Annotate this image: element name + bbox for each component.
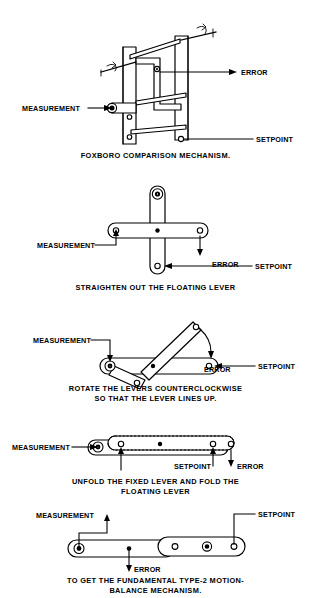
unfold-error-pivot: [228, 441, 233, 446]
panel-final: MEASUREMENT SETPOINT ERROR TO GET THE FU…: [36, 510, 296, 595]
final-mid-pivot: [172, 544, 178, 550]
straighten-measurement-label: MEASUREMENT: [37, 241, 95, 250]
foxboro-pivot-left-low: [127, 135, 132, 140]
rotate-error-pivot: [193, 324, 198, 329]
unfold-setpoint-label: SETPOINT: [174, 462, 212, 471]
foxboro-pivot-error-center: [156, 68, 158, 70]
rotate-measurement-leader: [91, 340, 113, 362]
rotate-caption-line-2: SO THAT THE LEVER LINES UP.: [94, 394, 216, 403]
rotate-measurement-bearing: [105, 361, 115, 371]
final-caption-line-1: TO GET THE FUNDAMENTAL TYPE-2 MOTION-: [67, 576, 244, 585]
unfold-setpoint-pivot: [210, 441, 215, 446]
figure-root: ERROR SETPOINT MEASUREMENT FOXBORO COMPA…: [0, 0, 311, 598]
unfold-error-label: ERROR: [237, 462, 264, 471]
straighten-top-bearing: [152, 189, 162, 199]
foxboro-pivot-left-mid: [127, 115, 132, 120]
foxboro-caption-line-1: FOXBORO COMPARISON MECHANISM.: [81, 151, 231, 160]
straighten-caption-line-1: STRAIGHTEN OUT THE FLOATING LEVER: [75, 283, 235, 292]
straighten-error-label: ERROR: [212, 260, 239, 269]
rotate-setpoint-label: SETPOINT: [258, 362, 296, 371]
foxboro-pivot-setpoint: [178, 136, 183, 141]
final-measurement-label: MEASUREMENT: [36, 511, 94, 520]
final-error-label: ERROR: [134, 565, 161, 574]
foxboro-error-leader: [160, 69, 237, 75]
unfold-center-pivot: [158, 442, 162, 446]
final-caption-line-2: BALANCE MECHANISM.: [109, 586, 201, 595]
straighten-error-pivot: [197, 228, 202, 233]
straighten-setpoint-label: SETPOINT: [255, 262, 293, 271]
straighten-center-pivot: [155, 228, 159, 232]
unfold-caption-line-1: UNFOLD THE FIXED LEVER AND FOLD THE: [72, 477, 239, 486]
foxboro-right-lever: [175, 36, 188, 140]
panel-straighten: MEASUREMENT ERROR SETPOINT STRAIGHTEN OU…: [37, 186, 293, 292]
unfold-pivot-a: [118, 441, 123, 446]
final-setpoint-label: SETPOINT: [258, 510, 296, 519]
panel-unfold: MEASUREMENT SETPOINT ERROR UNFOLD THE FI…: [12, 436, 264, 496]
rotate-error-leader: [200, 329, 214, 359]
foxboro-setpoint-label: SETPOINT: [256, 135, 294, 144]
straighten-setpoint-pivot: [155, 263, 160, 268]
final-fulcrum: [202, 542, 211, 551]
foxboro-error-label: ERROR: [241, 68, 268, 77]
foxboro-upper-rod: [130, 39, 180, 59]
mechanism-figure: ERROR SETPOINT MEASUREMENT FOXBORO COMPA…: [0, 0, 311, 598]
unfold-error-leader: [228, 450, 234, 467]
straighten-setpoint-leader: [164, 263, 252, 269]
rotate-center-pivot: [151, 364, 155, 368]
unfold-measurement-label: MEASUREMENT: [12, 443, 70, 452]
rotate-setpoint-leader: [214, 363, 255, 369]
rotate-caption-line-1: ROTATE THE LEVERS COUNTERCLOCKWISE: [69, 384, 242, 393]
unfold-caption-line-2: FLOATING LEVER: [121, 487, 190, 496]
panel-foxboro: ERROR SETPOINT MEASUREMENT FOXBORO COMPA…: [22, 24, 294, 160]
foxboro-measurement-label: MEASUREMENT: [22, 104, 80, 113]
straighten-error-leader: [197, 236, 203, 256]
rotate-measurement-label: MEASUREMENT: [33, 336, 91, 345]
panel-rotate: MEASUREMENT ERROR SETPOINT ROTATE THE LE…: [33, 322, 296, 403]
